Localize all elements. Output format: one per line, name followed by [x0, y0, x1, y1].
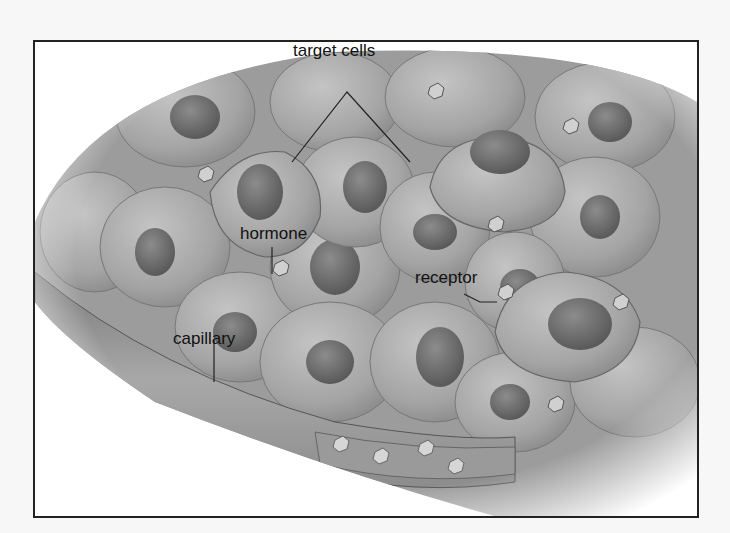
label-receptor: receptor [415, 268, 477, 288]
label-target-cells: target cells [293, 41, 375, 61]
cell-illustration [35, 42, 697, 516]
label-capillary: capillary [173, 329, 235, 349]
diagram-frame: target cells hormone receptor capillary [33, 40, 699, 518]
label-hormone: hormone [240, 224, 307, 244]
